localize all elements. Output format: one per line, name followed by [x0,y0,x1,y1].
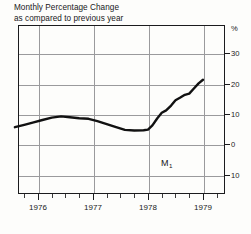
data-line-m1 [15,80,203,131]
series-annotation-letter: M [161,158,169,168]
series-layer [0,0,251,234]
series-annotation-subscript: 1 [169,162,172,169]
series-annotation-m1: M1 [161,158,172,168]
chart-figure: Monthly Percentage Change as compared to… [0,0,251,234]
